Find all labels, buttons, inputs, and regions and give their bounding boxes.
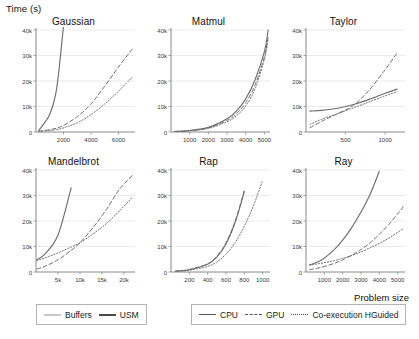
legend-item-coexecution: Co-execution HGuided: [291, 310, 398, 320]
panel-matmul: Matmul 010k20k30k40k10002000300040005000: [141, 14, 276, 154]
panel-mandelbrot: Mandelbrot 010k20k30k40k5k10k15k20k: [6, 154, 141, 294]
svg-text:10k: 10k: [22, 244, 33, 250]
svg-text:40k: 40k: [22, 28, 33, 34]
svg-text:5000: 5000: [391, 277, 405, 283]
svg-text:30k: 30k: [157, 193, 168, 199]
svg-text:40k: 40k: [292, 168, 303, 174]
svg-text:200: 200: [184, 277, 195, 283]
svg-text:500: 500: [341, 137, 352, 143]
svg-text:20k: 20k: [22, 219, 33, 225]
svg-text:0: 0: [299, 270, 303, 276]
svg-text:400: 400: [203, 277, 214, 283]
svg-text:2000: 2000: [57, 137, 71, 143]
svg-text:600: 600: [221, 277, 232, 283]
plot-taylor: 010k20k30k40k5001000: [276, 14, 411, 154]
svg-text:1000: 1000: [256, 277, 270, 283]
svg-text:30k: 30k: [157, 53, 168, 59]
svg-text:20k: 20k: [119, 277, 130, 283]
svg-text:800: 800: [239, 277, 250, 283]
legend-area: Buffers USM CPU GPU Co-execution HGuided: [0, 300, 419, 339]
svg-text:40k: 40k: [157, 28, 168, 34]
legend-label: Buffers: [65, 310, 92, 320]
svg-text:5000: 5000: [258, 137, 272, 143]
line-sample-usm-icon: [99, 314, 116, 316]
legend-item-usm: USM: [99, 310, 139, 320]
svg-text:4000: 4000: [373, 277, 387, 283]
plot-mandelbrot: 010k20k30k40k5k10k15k20k: [6, 154, 141, 294]
svg-text:2000: 2000: [336, 277, 350, 283]
svg-text:30k: 30k: [292, 193, 303, 199]
svg-text:20k: 20k: [292, 219, 303, 225]
svg-text:40k: 40k: [157, 168, 168, 174]
legend-label: USM: [120, 310, 139, 320]
svg-text:0: 0: [164, 130, 168, 136]
line-sample-cpu-icon: [199, 314, 216, 315]
panel-ray: Ray 010k20k30k40k10002000300040005000: [276, 154, 411, 294]
line-sample-buffers-icon: [44, 314, 61, 316]
svg-text:5k: 5k: [55, 277, 62, 283]
svg-text:0: 0: [29, 130, 33, 136]
svg-text:15k: 15k: [97, 277, 108, 283]
panel-rap: Rap 010k20k30k40k2004006008001000: [141, 154, 276, 294]
svg-text:0: 0: [299, 130, 303, 136]
legend-item-cpu: CPU: [199, 310, 238, 320]
svg-text:3000: 3000: [220, 137, 234, 143]
panel-gaussian: Gaussian 010k20k30k40k200040006000: [6, 14, 141, 154]
plot-ray: 010k20k30k40k10002000300040005000: [276, 154, 411, 294]
svg-text:10k: 10k: [292, 244, 303, 250]
svg-text:10k: 10k: [292, 104, 303, 110]
svg-text:20k: 20k: [22, 79, 33, 85]
svg-text:4000: 4000: [84, 137, 98, 143]
plot-gaussian: 010k20k30k40k200040006000: [6, 14, 141, 154]
legend-label: Co-execution HGuided: [312, 310, 398, 320]
legend-label: GPU: [266, 310, 284, 320]
svg-text:30k: 30k: [22, 53, 33, 59]
plot-matmul: 010k20k30k40k10002000300040005000: [141, 14, 276, 154]
svg-text:4000: 4000: [239, 137, 253, 143]
svg-text:10k: 10k: [22, 104, 33, 110]
y-axis-label: Time (s): [6, 3, 41, 14]
line-sample-coexecution-icon: [291, 314, 308, 315]
line-sample-gpu-icon: [245, 314, 262, 315]
legend-device: CPU GPU Co-execution HGuided: [191, 304, 406, 325]
svg-text:40k: 40k: [292, 28, 303, 34]
svg-text:1000: 1000: [379, 137, 393, 143]
legend-label: CPU: [220, 310, 238, 320]
svg-text:20k: 20k: [157, 79, 168, 85]
svg-text:0: 0: [29, 270, 33, 276]
legend-memory-model: Buffers USM: [36, 304, 147, 325]
svg-text:40k: 40k: [22, 168, 33, 174]
svg-text:2000: 2000: [202, 137, 216, 143]
svg-text:3000: 3000: [354, 277, 368, 283]
svg-text:30k: 30k: [292, 53, 303, 59]
svg-text:10k: 10k: [157, 104, 168, 110]
svg-text:10k: 10k: [157, 244, 168, 250]
panel-grid: Gaussian 010k20k30k40k200040006000 Matmu…: [0, 14, 419, 292]
svg-text:30k: 30k: [22, 193, 33, 199]
svg-text:20k: 20k: [157, 219, 168, 225]
svg-text:1000: 1000: [183, 137, 197, 143]
svg-text:10k: 10k: [75, 277, 86, 283]
legend-item-gpu: GPU: [245, 310, 284, 320]
svg-text:20k: 20k: [292, 79, 303, 85]
legend-item-buffers: Buffers: [44, 310, 92, 320]
plot-rap: 010k20k30k40k2004006008001000: [141, 154, 276, 294]
svg-text:6000: 6000: [112, 137, 126, 143]
svg-text:0: 0: [164, 270, 168, 276]
svg-text:1000: 1000: [318, 277, 332, 283]
panel-taylor: Taylor 010k20k30k40k5001000: [276, 14, 411, 154]
